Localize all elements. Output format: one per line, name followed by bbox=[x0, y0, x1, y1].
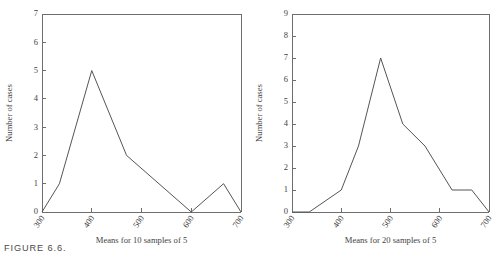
x-tick-label: 500 bbox=[380, 213, 396, 229]
x-tick-label: 600 bbox=[180, 213, 196, 229]
line-chart-10-samples: 01234567300400500600700Means for 10 samp… bbox=[0, 0, 249, 250]
x-tick-label: 600 bbox=[429, 213, 445, 229]
y-tick-label: 3 bbox=[284, 140, 288, 150]
x-tick-label: 700 bbox=[478, 213, 494, 229]
x-tick-label: 700 bbox=[230, 213, 246, 229]
y-tick-label: 9 bbox=[284, 8, 288, 18]
y-tick-label: 6 bbox=[34, 37, 38, 47]
y-tick-label: 4 bbox=[34, 93, 39, 103]
y-tick-label: 2 bbox=[284, 162, 288, 172]
x-axis-title: Means for 20 samples of 5 bbox=[345, 235, 436, 245]
figure-caption: FIGURE 6.6. bbox=[4, 243, 67, 253]
y-tick-label: 3 bbox=[34, 122, 38, 132]
y-axis-title: Number of cases bbox=[4, 83, 14, 141]
x-axis-title: Means for 10 samples of 5 bbox=[96, 235, 187, 245]
y-tick-label: 5 bbox=[34, 65, 38, 75]
y-tick-label: 2 bbox=[34, 150, 38, 160]
x-tick-label: 500 bbox=[131, 213, 147, 229]
y-tick-label: 1 bbox=[284, 184, 288, 194]
y-axis-title: Number of cases bbox=[254, 83, 264, 141]
data-series-line bbox=[292, 58, 489, 212]
chart-panel-left: 01234567300400500600700Means for 10 samp… bbox=[0, 0, 249, 250]
y-tick-label: 7 bbox=[284, 52, 288, 62]
y-tick-label: 1 bbox=[34, 178, 38, 188]
y-tick-label: 6 bbox=[284, 74, 288, 84]
chart-panel-right: 0123456789300400500600700Means for 20 sa… bbox=[250, 0, 499, 250]
figure-6-6: 01234567300400500600700Means for 10 samp… bbox=[0, 0, 499, 265]
x-tick-label: 400 bbox=[330, 213, 346, 229]
y-tick-label: 7 bbox=[34, 8, 38, 18]
data-series-line bbox=[42, 71, 241, 212]
y-tick-label: 8 bbox=[284, 30, 288, 40]
y-tick-label: 4 bbox=[284, 118, 289, 128]
x-tick-label: 400 bbox=[81, 213, 97, 229]
line-chart-20-samples: 0123456789300400500600700Means for 20 sa… bbox=[250, 0, 499, 250]
y-tick-label: 5 bbox=[284, 96, 288, 106]
